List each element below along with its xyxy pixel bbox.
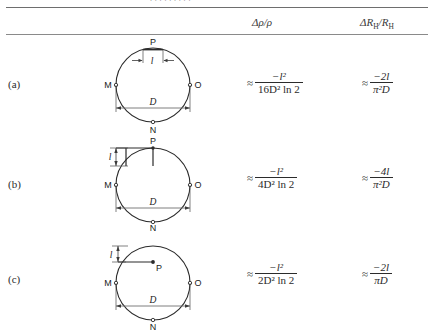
point-label-m: M — [104, 180, 112, 190]
point-label-n: N — [150, 125, 157, 135]
node-p — [151, 260, 155, 264]
node-p — [151, 146, 154, 149]
table-row: (c) P l M O N — [0, 231, 432, 331]
d-arrowhead-right — [185, 206, 190, 209]
point-label-o: O — [194, 278, 201, 288]
l-arrowhead-right — [164, 59, 168, 62]
diagram-c: P l M O N D — [96, 231, 216, 335]
table-top-rule — [6, 7, 428, 8]
point-label-n: N — [150, 322, 157, 331]
length-label-l: l — [109, 152, 112, 162]
formula-delta-rh-b: ≈ −4l π²D — [362, 165, 393, 191]
point-label-m: M — [104, 278, 112, 288]
diagram-a: l P M O N D — [96, 38, 216, 139]
row-label-c: (c) — [8, 273, 20, 285]
l-arrowhead-bottom — [114, 161, 117, 166]
row-label-a: (a) — [8, 78, 20, 90]
formula-denominator: πD — [370, 274, 392, 286]
formula-delta-rho-a: ≈ −l² 16D² ln 2 — [247, 70, 303, 96]
l-arrowhead-top — [114, 148, 117, 153]
d-arrowhead-right — [185, 106, 190, 109]
d-arrowhead-left — [116, 304, 121, 307]
point-label-p: P — [156, 263, 162, 273]
diameter-label-d: D — [149, 97, 157, 107]
formula-numerator: −l² — [255, 165, 297, 178]
diameter-label-d: D — [149, 295, 157, 305]
point-label-m: M — [104, 80, 112, 90]
node-n — [151, 120, 154, 123]
length-label-l: l — [151, 56, 154, 66]
column-header-delta-rh: ΔRH/RH — [360, 16, 394, 31]
approx-sign: ≈ — [362, 77, 368, 89]
table-header-rule — [6, 34, 428, 35]
formula-delta-rho-b: ≈ −l² 4D² ln 2 — [247, 165, 297, 191]
formula-delta-rho-c: ≈ −l² 2D² ln 2 — [247, 261, 297, 287]
radial-slit — [116, 148, 153, 166]
l-arrowhead-top — [116, 246, 119, 251]
d-arrowhead-left — [116, 206, 121, 209]
formula-denominator: 2D² ln 2 — [255, 274, 297, 286]
formula-numerator: −l² — [255, 70, 303, 83]
formula-numerator: −2l — [370, 70, 393, 83]
d-arrowhead-left — [116, 106, 121, 109]
diameter-label-d: D — [149, 197, 157, 207]
column-header-delta-rho: Δρ/ρ — [252, 16, 272, 28]
formula-denominator: π²D — [370, 83, 393, 95]
length-label-l: l — [110, 250, 113, 260]
formula-numerator: −l² — [255, 261, 297, 274]
formula-denominator: 16D² ln 2 — [255, 83, 303, 95]
formula-numerator: −2l — [370, 261, 392, 274]
d-arrowhead-right — [185, 304, 190, 307]
l-arrowhead-left — [139, 59, 143, 62]
approx-sign: ≈ — [362, 268, 368, 280]
diagram-b: l P M O N D — [96, 135, 216, 235]
point-label-p: P — [150, 38, 156, 47]
cropped-caption: . . . . . . . . . — [150, 0, 350, 2]
formula-delta-rh-a: ≈ −2l π²D — [362, 70, 393, 96]
approx-sign: ≈ — [247, 77, 253, 89]
point-label-p: P — [150, 136, 156, 146]
approx-sign: ≈ — [247, 172, 253, 184]
point-label-n: N — [150, 223, 157, 231]
formula-numerator: −4l — [370, 165, 393, 178]
approx-sign: ≈ — [247, 268, 253, 280]
formula-delta-rh-c: ≈ −2l πD — [362, 261, 392, 287]
table-row: (a) l P M O N — [0, 38, 432, 135]
row-label-b: (b) — [8, 178, 21, 190]
formula-denominator: 4D² ln 2 — [255, 178, 297, 190]
circle-outline — [116, 246, 190, 320]
approx-sign: ≈ — [362, 172, 368, 184]
point-label-o: O — [194, 80, 201, 90]
l-arrowhead-bottom — [116, 257, 119, 262]
formula-denominator: π²D — [370, 178, 393, 190]
point-label-o: O — [194, 180, 201, 190]
table-row: (b) l P M O N — [0, 135, 432, 231]
